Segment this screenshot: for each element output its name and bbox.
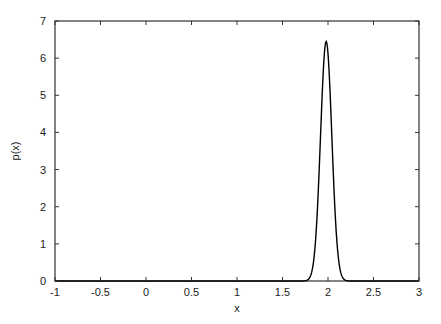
x-tick-label: -0.5 xyxy=(91,286,110,298)
x-tick-label: 1.5 xyxy=(275,286,290,298)
x-tick-label: 2.5 xyxy=(366,286,381,298)
y-tick-label: 5 xyxy=(40,89,46,101)
y-tick-label: 3 xyxy=(40,164,46,176)
x-tick-label: 1 xyxy=(234,286,240,298)
y-axis-ticks: 01234567 xyxy=(40,15,419,287)
y-tick-label: 6 xyxy=(40,52,46,64)
plot-area xyxy=(55,21,419,281)
y-tick-label: 2 xyxy=(40,201,46,213)
plot-frame xyxy=(55,21,419,281)
y-tick-label: 1 xyxy=(40,238,46,250)
x-tick-label: 0 xyxy=(143,286,149,298)
x-tick-label: 0.5 xyxy=(184,286,199,298)
x-axis-label: x xyxy=(234,302,240,314)
y-tick-label: 0 xyxy=(40,275,46,287)
density-curve xyxy=(55,41,419,281)
y-tick-label: 4 xyxy=(40,126,46,138)
y-axis-label: p(x) xyxy=(9,142,21,161)
x-tick-label: 2 xyxy=(325,286,331,298)
chart: -1-0.500.511.522.53 01234567 x p(x) xyxy=(0,0,441,324)
y-tick-label: 7 xyxy=(40,15,46,27)
x-tick-label: 3 xyxy=(416,286,422,298)
x-tick-label: -1 xyxy=(50,286,60,298)
x-axis-ticks: -1-0.500.511.522.53 xyxy=(50,21,422,298)
